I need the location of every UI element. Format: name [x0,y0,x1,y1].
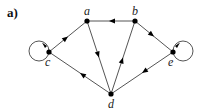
arrow-b-a-icon [109,19,115,24]
label-c: c [45,55,51,69]
edge-d-b [111,21,135,94]
node-a [84,18,89,23]
arrow-e-d-icon [141,68,149,76]
arrow-loop-e-icon [175,43,180,49]
label-e: e [168,55,174,69]
arrow-a-d-icon [95,51,102,58]
arrow-loop-c-icon [42,43,47,49]
node-d [108,91,113,96]
label-b: b [132,4,138,18]
directed-graph: a b c d e [0,0,205,112]
label-d: d [108,97,115,111]
arrow-d-c-icon [79,71,87,79]
node-b [132,18,137,23]
loop-e [173,41,193,61]
label-a: a [84,4,90,18]
nodes [46,18,175,96]
arrow-d-b-icon [119,57,126,64]
node-e [170,49,175,54]
node-c [46,49,51,54]
